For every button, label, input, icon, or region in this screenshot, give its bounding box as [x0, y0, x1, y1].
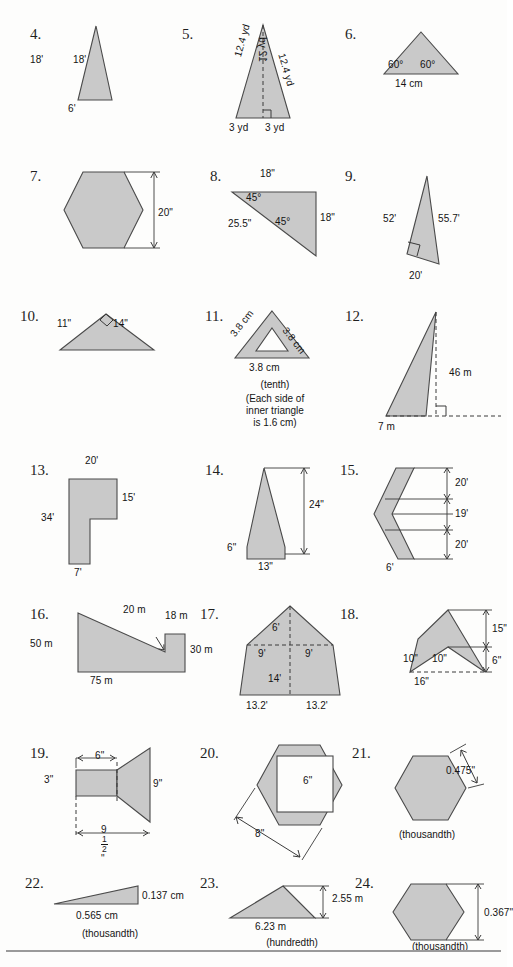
label-right-side: 18"	[320, 212, 335, 223]
note-line-2: inner triangle	[235, 405, 315, 416]
label-upper-height: 15"	[492, 623, 507, 634]
fraction-denominator: 2	[101, 845, 108, 854]
label-apex-height: 6'	[272, 622, 280, 633]
label-angle-lower: 45°	[275, 216, 290, 227]
label-height: 0.137 cm	[142, 890, 184, 901]
label-height: 46 m	[449, 367, 472, 378]
figure-hexagon-with-square-hole	[222, 738, 357, 848]
label-right: 15'	[122, 492, 135, 503]
label-base-left: 13.2'	[246, 700, 268, 711]
problem-number: 10.	[20, 308, 39, 325]
label-height: 24"	[309, 499, 324, 510]
label-base: 20'	[409, 270, 422, 281]
note-precision: (tenth)	[235, 379, 315, 390]
label-angle-left: 60°	[388, 59, 403, 70]
figure-obtuse-triangle	[225, 878, 355, 938]
label-side: 0.475"	[446, 765, 475, 776]
problem-number: 6.	[345, 26, 356, 43]
label-top-side: 18"	[260, 168, 275, 179]
label-hypotenuse: 25.5"	[228, 218, 252, 229]
label-segment-3: 20'	[455, 539, 468, 550]
label-half-base-right: 10"	[432, 653, 447, 664]
label-hexagon-side: 8"	[255, 828, 264, 839]
label-left-side: 11"	[57, 318, 71, 329]
footer-rule	[6, 950, 501, 952]
note-precision: (hundredth)	[242, 937, 342, 948]
figure-right-triangle	[375, 172, 485, 282]
figure-thin-triangle	[366, 306, 511, 431]
problem-number: 5.	[182, 26, 193, 43]
figure-pentagon-house	[228, 602, 358, 712]
label-height: 12 yd	[257, 37, 268, 62]
figure-triangle	[215, 22, 325, 132]
label-top: 20'	[85, 455, 98, 466]
label-half-width-left: 9'	[258, 648, 266, 659]
fraction: 12	[101, 835, 108, 853]
label-base: 75 m	[90, 675, 113, 686]
problem-number: 19.	[30, 745, 49, 762]
label-right-height: 30 m	[190, 644, 213, 655]
problem-number: 9.	[345, 168, 356, 185]
problem-number: 24.	[355, 875, 374, 892]
figure-chevron-strip	[368, 462, 498, 572]
problem-number: 11.	[205, 308, 223, 325]
figure-bar-with-flare	[60, 740, 210, 850]
figure-thin-triangle	[50, 878, 210, 928]
label-side-left: 18'	[30, 54, 43, 65]
label-total-length: 912"	[101, 824, 108, 864]
label-base: 6'	[68, 103, 76, 114]
note-line-3: is 1.6 cm)	[235, 417, 315, 428]
label-left-height: 50 m	[30, 638, 53, 649]
label-base: 16"	[414, 676, 429, 687]
figure-kite-triangle	[232, 462, 352, 572]
label-segment-2: 19'	[455, 508, 468, 519]
problem-number: 22.	[25, 875, 44, 892]
label-left-side: 52'	[383, 213, 396, 224]
label-half-width-right: 9'	[305, 648, 313, 659]
label-bar-length: 6"	[95, 750, 104, 761]
label-left: 6"	[227, 542, 236, 553]
problem-number: 8.	[210, 168, 221, 185]
label-slope: 20 m	[123, 604, 146, 615]
label-angle-right: 60°	[420, 59, 435, 70]
problem-number: 7.	[30, 168, 41, 185]
label-right-side: 14"	[113, 318, 128, 329]
label-bottom: 7'	[74, 567, 82, 578]
label-angle-upper: 45°	[246, 192, 261, 203]
figure-L-shape	[60, 466, 180, 576]
problem-number: 18.	[340, 606, 359, 623]
label-width: 6'	[386, 562, 394, 573]
problem-number: 16.	[30, 606, 49, 623]
note-precision: (thousandth)	[60, 928, 160, 939]
label-left: 34'	[41, 512, 54, 523]
label-half-base-left: 3 yd	[229, 122, 248, 133]
label-square-side: 6"	[303, 775, 312, 786]
problem-number: 23.	[200, 875, 219, 892]
label-bar-height: 3"	[44, 774, 53, 785]
note-precision: (thousandth)	[377, 829, 477, 840]
label-flare-height: 9"	[153, 778, 162, 789]
label-base: 7 m	[378, 421, 395, 432]
label-height: 2.55 m	[332, 893, 363, 904]
label-lower-height: 6"	[492, 655, 501, 666]
label-base: 14 cm	[395, 78, 423, 89]
problem-number: 4.	[30, 26, 41, 43]
note-line-1: (Each side of	[235, 393, 315, 404]
problem-number: 21.	[352, 745, 371, 762]
label-base: 0.565 cm	[76, 910, 118, 921]
label-side-right: 18'	[73, 54, 86, 65]
label-base-right: 13.2'	[306, 700, 328, 711]
label-lower-height: 14'	[268, 673, 281, 684]
problem-number: 13.	[30, 462, 49, 479]
label-base: 6.23 m	[255, 921, 286, 932]
figure-hexagon	[50, 166, 175, 266]
label-segment-1: 20'	[455, 477, 468, 488]
label-half-base-right: 3 yd	[265, 122, 284, 133]
problem-number: 12.	[345, 308, 364, 325]
figure-triangle	[368, 28, 478, 88]
label-height: 0.367"	[484, 907, 513, 918]
label-height: 20"	[158, 207, 173, 218]
problem-number: 14.	[205, 462, 224, 479]
problem-number: 20.	[200, 745, 219, 762]
problem-number: 17.	[200, 606, 219, 623]
